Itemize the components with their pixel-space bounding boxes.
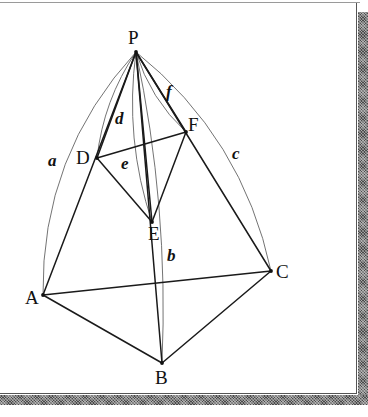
vertex-label-c: C: [276, 262, 289, 281]
vertex-point-a: [41, 293, 45, 297]
arc-label-b: b: [167, 247, 176, 264]
vertex-label-d: D: [76, 148, 90, 167]
geometry-figure: [0, 0, 368, 417]
vertex-label-b: B: [155, 368, 168, 387]
arc-label-e: e: [121, 155, 129, 172]
edge-a-b: [43, 295, 162, 363]
arc-label-f: f: [166, 83, 172, 100]
edge-a-c: [43, 271, 271, 295]
vertex-point-d: [95, 156, 99, 160]
vertex-label-f: F: [188, 115, 199, 134]
edge-e-f: [152, 132, 186, 222]
vertex-label-a: A: [25, 288, 39, 307]
vertex-point-p: [134, 50, 138, 54]
vertex-point-b: [160, 361, 164, 365]
arc-label-d: d: [115, 110, 124, 127]
vertex-label-p: P: [128, 28, 139, 47]
arc-label-a: a: [48, 152, 57, 169]
arc-label-c: c: [232, 145, 240, 162]
edge-layer: [43, 52, 271, 363]
edge-d-f: [97, 132, 186, 158]
diagram-page: PDFEACB abcdef: [0, 0, 368, 417]
vertex-label-e: E: [148, 224, 160, 243]
edge-p-d: [97, 52, 136, 158]
edge-b-c: [162, 271, 271, 363]
vertex-point-c: [269, 269, 273, 273]
